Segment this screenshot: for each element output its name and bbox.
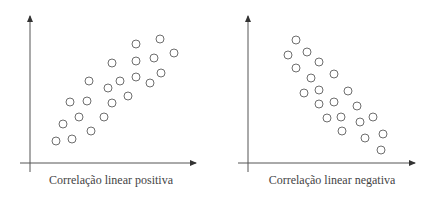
data-point bbox=[108, 99, 116, 107]
data-point bbox=[369, 113, 377, 121]
data-point bbox=[66, 98, 74, 106]
data-point bbox=[323, 114, 331, 122]
data-point bbox=[303, 48, 311, 56]
data-point bbox=[377, 146, 385, 154]
data-points bbox=[52, 35, 178, 145]
chart-caption-left: Correlação linear positiva bbox=[49, 173, 174, 187]
data-point bbox=[379, 130, 387, 138]
data-point bbox=[132, 57, 140, 65]
data-point bbox=[157, 69, 165, 77]
data-point bbox=[284, 51, 292, 59]
data-point bbox=[150, 54, 158, 62]
data-point bbox=[100, 113, 108, 121]
data-point bbox=[83, 97, 91, 105]
data-point bbox=[132, 73, 140, 81]
data-point bbox=[87, 127, 95, 135]
data-point bbox=[292, 64, 300, 72]
data-point bbox=[146, 79, 154, 87]
data-point bbox=[315, 58, 323, 66]
data-point bbox=[315, 86, 323, 94]
data-point bbox=[75, 113, 83, 121]
data-point bbox=[361, 134, 369, 142]
positive-correlation-chart: Correlação linear positiva bbox=[20, 16, 196, 187]
data-point bbox=[292, 36, 300, 44]
data-point bbox=[300, 89, 308, 97]
data-point bbox=[170, 49, 178, 57]
data-point bbox=[330, 70, 338, 78]
data-point bbox=[330, 98, 338, 106]
correlation-figure: Correlação linear positiva Correlação li… bbox=[0, 0, 437, 199]
data-points bbox=[284, 36, 387, 154]
chart-caption-right: Correlação linear negativa bbox=[269, 173, 396, 187]
data-point bbox=[124, 92, 132, 100]
data-point bbox=[356, 118, 364, 126]
data-point bbox=[132, 40, 140, 48]
negative-correlation-chart: Correlação linear negativa bbox=[238, 16, 415, 187]
data-point bbox=[307, 74, 315, 82]
data-point bbox=[108, 59, 116, 67]
data-point bbox=[338, 127, 346, 135]
data-point bbox=[353, 102, 361, 110]
data-point bbox=[344, 87, 352, 95]
data-point bbox=[156, 35, 164, 43]
data-point bbox=[68, 135, 76, 143]
data-point bbox=[315, 100, 323, 108]
data-point bbox=[85, 77, 93, 85]
data-point bbox=[337, 113, 345, 121]
data-point bbox=[59, 120, 67, 128]
data-point bbox=[116, 77, 124, 85]
data-point bbox=[52, 137, 60, 145]
data-point bbox=[104, 84, 112, 92]
